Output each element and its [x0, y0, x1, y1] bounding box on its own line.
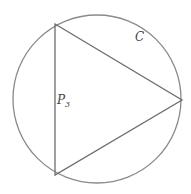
circle-label: C	[135, 30, 144, 44]
circle-c	[13, 15, 181, 183]
polygon-label: P3	[56, 93, 70, 109]
diagram-canvas: C P3	[0, 0, 191, 194]
inscribed-triangle-diagram: C P3	[0, 0, 191, 194]
